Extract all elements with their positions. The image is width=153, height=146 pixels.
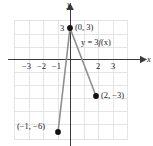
y-tick-label-3: 3: [60, 24, 64, 33]
function-annotation-suffix: (x): [101, 37, 111, 47]
x-tick-label-3: 3: [111, 62, 115, 71]
x-tick-label-neg2: −2: [37, 62, 46, 71]
point-0-3: [67, 25, 73, 31]
point-label-0-3: (0, 3): [75, 23, 93, 32]
x-tick-label-neg1: −1: [52, 62, 61, 71]
x-tick-label-2: 2: [96, 62, 100, 71]
point-neg1-neg6: [55, 129, 61, 135]
function-annotation: y = 3f(x): [81, 38, 111, 47]
point-label-2-neg3: (2, −3): [101, 91, 124, 100]
x-tick-label-neg3: −3: [22, 62, 31, 71]
point-2-neg3: [93, 93, 99, 99]
point-label-neg1-neg6: (−1, −6): [17, 122, 45, 131]
graph-figure: x y 3 −3 −2 −1 2 3 (0, 3) (2, −3) (−1, −…: [0, 0, 153, 146]
function-annotation-prefix: y = 3: [81, 37, 99, 47]
y-axis-label: y: [67, 0, 71, 9]
x-axis-label: x: [147, 55, 151, 64]
